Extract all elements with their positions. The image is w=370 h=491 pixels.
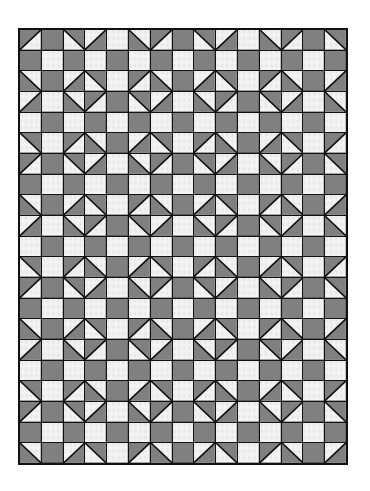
triangle-block-dark-top-right [85, 71, 106, 91]
light-square [282, 237, 303, 257]
light-square [64, 113, 85, 133]
dark-square [42, 402, 63, 422]
light-square [64, 237, 85, 257]
dark-square [42, 237, 63, 257]
triangle-block-dark-bottom-right [194, 195, 215, 215]
triangle-block-dark-top-left [282, 154, 303, 174]
triangle-block-dark-top-left [282, 402, 303, 422]
triangle-block-dark-top-left [20, 30, 41, 50]
dark-square [194, 299, 215, 319]
triangle-block-dark-bottom-right [194, 443, 215, 463]
dark-square [325, 51, 346, 71]
triangle-block-dark-top-right [129, 216, 150, 236]
triangle-block-dark-top-right [129, 92, 150, 112]
dark-square [107, 423, 128, 443]
dark-square [303, 237, 324, 257]
light-square [20, 361, 41, 381]
dark-square [238, 257, 259, 277]
dark-square [20, 423, 41, 443]
triangle-block-dark-top-right [282, 381, 303, 401]
triangle-block-dark-top-right [194, 402, 215, 422]
triangle-block-dark-top-right [151, 133, 172, 153]
dark-square [173, 71, 194, 91]
triangle-block-dark-top-left [282, 278, 303, 298]
light-square [238, 30, 259, 50]
triangle-block-dark-bottom-left [85, 257, 106, 277]
light-square [20, 237, 41, 257]
dark-square [20, 51, 41, 71]
light-square [42, 299, 63, 319]
light-square [303, 299, 324, 319]
triangle-block-dark-bottom-left [64, 216, 85, 236]
triangle-block-dark-bottom-left [216, 257, 237, 277]
triangle-block-dark-bottom-right [260, 133, 281, 153]
light-square [173, 216, 194, 236]
light-square [260, 423, 281, 443]
dark-square [20, 299, 41, 319]
triangle-block-dark-top-left [216, 92, 237, 112]
light-square [303, 51, 324, 71]
light-square [64, 361, 85, 381]
dark-square [64, 51, 85, 71]
triangle-block-dark-bottom-right [325, 443, 346, 463]
light-square [303, 175, 324, 195]
triangle-block-dark-top-right [85, 319, 106, 339]
triangle-block-dark-bottom-right [194, 71, 215, 91]
triangle-block-dark-bottom-left [129, 278, 150, 298]
triangle-block-dark-top-left [64, 381, 85, 401]
light-square [173, 51, 194, 71]
light-square [194, 113, 215, 133]
triangle-block-dark-bottom-left [85, 381, 106, 401]
triangle-block-dark-bottom-right [216, 402, 237, 422]
triangle-block-dark-bottom-left [282, 71, 303, 91]
triangle-block-dark-bottom-right [282, 92, 303, 112]
dark-square [129, 361, 150, 381]
dark-square [238, 423, 259, 443]
dark-square [238, 340, 259, 360]
triangle-block-dark-top-left [64, 257, 85, 277]
light-square [194, 237, 215, 257]
triangle-block-dark-bottom-left [194, 340, 215, 360]
triangle-block-dark-bottom-left [20, 71, 41, 91]
triangle-block-dark-top-right [20, 381, 41, 401]
light-square [238, 195, 259, 215]
light-square [216, 51, 237, 71]
light-square [42, 51, 63, 71]
triangle-block-dark-top-left [325, 381, 346, 401]
dark-square [303, 71, 324, 91]
triangle-block-dark-top-right [20, 257, 41, 277]
triangle-block-dark-top-right [260, 340, 281, 360]
dark-square [238, 51, 259, 71]
light-square [282, 113, 303, 133]
light-square [85, 51, 106, 71]
triangle-block-dark-bottom-right [325, 319, 346, 339]
triangle-block-dark-bottom-right [260, 381, 281, 401]
dark-square [303, 154, 324, 174]
triangle-block-dark-bottom-right [85, 278, 106, 298]
triangle-block-dark-top-right [194, 30, 215, 50]
triangle-block-dark-top-left [64, 133, 85, 153]
dark-square [107, 257, 128, 277]
light-square [216, 299, 237, 319]
light-square [238, 443, 259, 463]
light-square [107, 402, 128, 422]
light-square [85, 299, 106, 319]
triangle-block-dark-bottom-left [325, 340, 346, 360]
triangle-block-dark-top-left [151, 154, 172, 174]
triangle-block-dark-bottom-right [282, 216, 303, 236]
triangle-block-dark-bottom-right [20, 340, 41, 360]
triangle-block-dark-top-right [260, 92, 281, 112]
dark-square [282, 299, 303, 319]
light-square [194, 361, 215, 381]
triangle-block-dark-top-right [194, 278, 215, 298]
dark-square [173, 195, 194, 215]
triangle-block-dark-bottom-left [64, 92, 85, 112]
dark-square [303, 361, 324, 381]
triangle-block-dark-bottom-right [85, 154, 106, 174]
light-square [151, 113, 172, 133]
light-square [42, 381, 63, 401]
light-square [129, 423, 150, 443]
dark-square [64, 299, 85, 319]
triangle-block-dark-bottom-left [20, 195, 41, 215]
dark-square [238, 299, 259, 319]
